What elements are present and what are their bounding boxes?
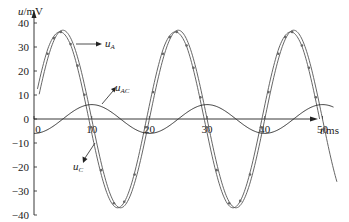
y-tick-label: −10 xyxy=(12,137,30,149)
data-point-marker xyxy=(249,173,252,176)
data-point-marker xyxy=(76,64,79,67)
svg-text:uAC: uAC xyxy=(115,81,130,95)
data-point-marker xyxy=(277,52,280,55)
data-point-marker xyxy=(192,67,195,70)
svg-text:uA: uA xyxy=(105,37,116,51)
data-point-marker xyxy=(152,91,155,94)
data-point-marker xyxy=(175,31,178,34)
y-tick-label: −40 xyxy=(12,209,30,221)
x-axis-arrow-icon xyxy=(310,117,318,122)
data-point-marker xyxy=(169,36,172,39)
data-point-marker xyxy=(59,31,62,34)
data-point-marker xyxy=(53,37,56,40)
data-point-marker xyxy=(113,202,116,205)
data-point-marker xyxy=(291,31,294,34)
data-point-marker xyxy=(162,52,165,55)
x-axis-title: t/ms xyxy=(320,124,339,136)
svg-text:uC: uC xyxy=(73,160,84,174)
y-tick-label: 40 xyxy=(18,17,30,29)
axes xyxy=(32,10,323,215)
data-point-marker xyxy=(69,43,72,46)
y-tick-label: −30 xyxy=(12,185,30,197)
data-point-marker xyxy=(267,91,270,94)
y-tick-label: 0 xyxy=(24,113,30,125)
y-tick-label: 30 xyxy=(18,41,30,53)
data-point-marker xyxy=(260,126,263,129)
y-tick-label: 20 xyxy=(18,65,30,77)
data-point-marker xyxy=(205,126,208,129)
data-point-marker xyxy=(185,44,188,47)
data-point-marker xyxy=(284,36,287,39)
data-point-marker xyxy=(199,96,202,99)
data-point-marker xyxy=(144,126,147,129)
data-point-marker xyxy=(90,126,93,129)
data-point-marker xyxy=(123,200,126,203)
y-axis-title: u/mV xyxy=(18,5,43,17)
y-tick-label: 10 xyxy=(18,89,30,101)
data-point-marker xyxy=(215,169,218,172)
data-point-marker xyxy=(83,93,86,96)
data-point-marker xyxy=(133,173,136,176)
data-point-marker xyxy=(315,96,318,99)
data-point-marker xyxy=(228,202,231,205)
data-point-marker xyxy=(239,200,242,203)
annotation-uAC: uAC xyxy=(102,81,130,104)
data-point-marker xyxy=(308,67,311,70)
data-point-marker xyxy=(46,52,49,55)
annotation-uC: uC xyxy=(73,143,95,174)
series-uA xyxy=(37,32,319,208)
annotation-uA: uA xyxy=(76,37,116,51)
data-point-marker xyxy=(301,44,304,47)
y-tick-label: −20 xyxy=(12,161,30,173)
data-point-marker xyxy=(100,169,103,172)
waveform-chart: 403020100−10−20−30−4001020304050 u/mV t/… xyxy=(0,0,349,222)
